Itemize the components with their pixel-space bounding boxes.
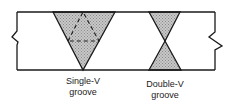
groove-weld-diagram — [0, 0, 239, 105]
double-v-label-line1: Double-V — [135, 79, 195, 90]
left-break-line — [12, 12, 18, 70]
double-v-upper-weld-area — [149, 12, 180, 41]
right-break-line — [209, 12, 222, 70]
double-v-lower-weld-area — [149, 41, 181, 70]
single-v-label-line1: Single-V — [53, 76, 113, 87]
single-v-groove-label: Single-V groove — [53, 76, 113, 98]
single-v-label-line2: groove — [53, 87, 113, 98]
double-v-groove-label: Double-V groove — [135, 79, 195, 101]
double-v-label-line2: groove — [135, 90, 195, 101]
